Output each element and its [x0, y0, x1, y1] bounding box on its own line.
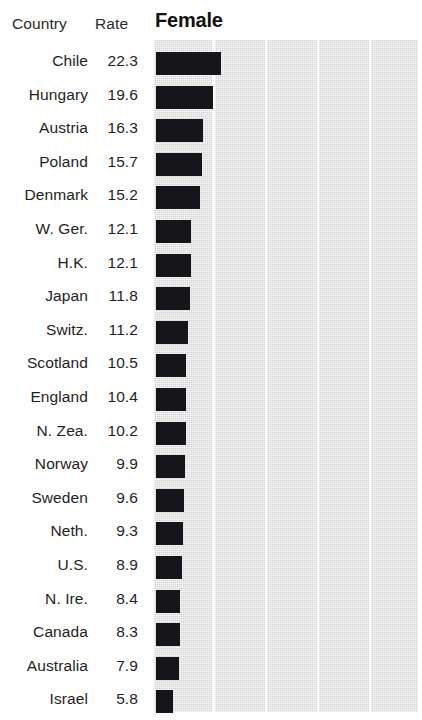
row-rate-value: 10.4: [94, 386, 138, 408]
bar: [156, 153, 202, 176]
row-country-label: Denmark: [0, 184, 88, 206]
chart-page: Country Rate Chile22.3Hungary19.6Austria…: [0, 0, 422, 720]
chart-panel: Female: [150, 0, 422, 720]
row-rate-value: 12.1: [94, 218, 138, 240]
row-country-label: N. Ire.: [0, 588, 88, 610]
row-rate-value: 11.2: [94, 319, 138, 341]
row-rate-value: 9.9: [94, 453, 138, 475]
row-country-label: Chile: [0, 50, 88, 72]
row-country-label: Poland: [0, 151, 88, 173]
plot-area: [150, 40, 422, 712]
bar: [156, 556, 182, 579]
column-header-country: Country: [12, 14, 67, 34]
country-rate-table: Country Rate Chile22.3Hungary19.6Austria…: [0, 0, 150, 720]
row-rate-value: 11.8: [94, 285, 138, 307]
row-country-label: Japan: [0, 285, 88, 307]
bar: [156, 321, 188, 344]
row-rate-value: 10.2: [94, 420, 138, 442]
row-rate-value: 9.3: [94, 520, 138, 542]
row-country-label: Israel: [0, 688, 88, 710]
row-rate-value: 8.3: [94, 621, 138, 643]
row-country-label: H.K.: [0, 252, 88, 274]
row-rate-value: 15.2: [94, 184, 138, 206]
row-rate-value: 9.6: [94, 487, 138, 509]
row-rate-value: 8.9: [94, 554, 138, 576]
row-country-label: Hungary: [0, 84, 88, 106]
bar: [156, 489, 184, 512]
row-rate-value: 16.3: [94, 117, 138, 139]
column-header-rate: Rate: [95, 14, 141, 34]
bar: [156, 86, 213, 109]
chart-title: Female: [155, 8, 223, 32]
row-country-label: Sweden: [0, 487, 88, 509]
row-rate-value: 22.3: [94, 50, 138, 72]
row-country-label: Norway: [0, 453, 88, 475]
row-rate-value: 7.9: [94, 655, 138, 677]
row-rate-value: 12.1: [94, 252, 138, 274]
row-country-label: W. Ger.: [0, 218, 88, 240]
bar: [156, 657, 179, 680]
bar: [156, 354, 186, 377]
row-country-label: N. Zea.: [0, 420, 88, 442]
bar: [156, 590, 180, 613]
row-rate-value: 8.4: [94, 588, 138, 610]
row-rate-value: 5.8: [94, 688, 138, 710]
bar: [156, 119, 203, 142]
bar: [156, 220, 191, 243]
row-rate-value: 10.5: [94, 352, 138, 374]
bar: [156, 52, 221, 75]
row-country-label: Scotland: [0, 352, 88, 374]
row-rate-value: 19.6: [94, 84, 138, 106]
bar: [156, 455, 185, 478]
bar: [156, 388, 186, 411]
row-country-label: England: [0, 386, 88, 408]
row-country-label: Neth.: [0, 520, 88, 542]
row-country-label: Switz.: [0, 319, 88, 341]
bar: [156, 623, 180, 646]
row-country-label: Austria: [0, 117, 88, 139]
bars-layer: [150, 40, 422, 712]
bar: [156, 186, 200, 209]
bar: [156, 254, 191, 277]
bar: [156, 522, 183, 545]
row-country-label: Canada: [0, 621, 88, 643]
row-rate-value: 15.7: [94, 151, 138, 173]
bar: [156, 287, 190, 310]
bar: [156, 422, 186, 445]
bar: [156, 690, 173, 713]
row-country-label: Australia: [0, 655, 88, 677]
row-country-label: U.S.: [0, 554, 88, 576]
